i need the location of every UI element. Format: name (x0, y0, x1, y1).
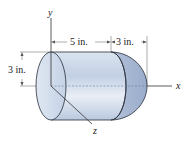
x-axis-label: x (175, 80, 181, 91)
cylinder-hemisphere-diagram: y x z 5 in. 3 in. 3 in. (0, 0, 191, 141)
dimension-cylinder-length: 5 in. (70, 36, 88, 47)
y-axis-label: y (47, 7, 53, 18)
dimension-hemisphere-length: 3 in. (116, 36, 134, 47)
z-axis-label: z (92, 125, 97, 136)
dimension-radius: 3 in. (8, 64, 26, 75)
